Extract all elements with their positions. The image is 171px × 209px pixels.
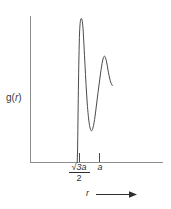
fraction-denominator: 2 xyxy=(62,173,96,183)
x-axis-arrow-head-icon xyxy=(129,191,137,197)
x-tick-label-sqrt3a-over-2: √3a 2 xyxy=(62,162,96,183)
y-axis-label-suffix: ) xyxy=(18,92,21,103)
chart-figure: g(r) √3a 2 a r xyxy=(0,0,171,209)
fraction-numerator: √3a xyxy=(62,162,96,172)
g-of-r-curve xyxy=(77,19,112,163)
x-axis-label: r xyxy=(86,188,89,198)
x-tick-label-a: a xyxy=(94,162,106,172)
y-axis-label: g(r) xyxy=(6,92,22,103)
y-axis-label-prefix: g( xyxy=(6,92,15,103)
